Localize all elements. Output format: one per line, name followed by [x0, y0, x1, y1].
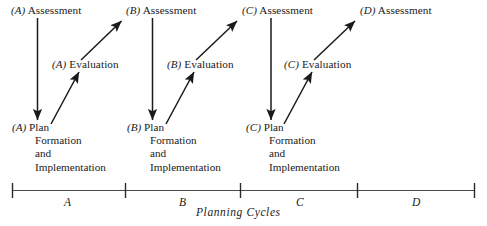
- planning-cycle-diagram: (A) Assessment (B) Assessment (C) Assess…: [0, 0, 487, 226]
- plan-tag-b: (B): [127, 121, 141, 133]
- cycle-tag-c: (C): [242, 4, 257, 16]
- assessment-text-d: Assessment: [378, 4, 432, 16]
- evaluation-tag-c: (C): [284, 58, 299, 70]
- plan-line1-c: Plan: [264, 121, 284, 133]
- plan-block-a: (A) Plan Formation and Implementation: [12, 121, 106, 174]
- plan-tag-c: (C): [246, 121, 261, 133]
- cycle-tag-b: (B): [126, 4, 140, 16]
- evaluation-tag-b: (B): [167, 58, 181, 70]
- assessment-label-a: (A) Assessment: [11, 4, 81, 17]
- cycle-tag-d: (D): [360, 4, 376, 16]
- plan-line2-b: Formation: [127, 134, 221, 147]
- plan-line4-b: Implementation: [127, 161, 221, 174]
- arrow-plan-to-evaluation-b: [166, 72, 194, 124]
- plan-block-c: (C) Plan Formation and Implementation: [246, 121, 340, 174]
- plan-line2-a: Formation: [12, 134, 106, 147]
- arrow-evaluation-to-assessment-b: [81, 21, 122, 60]
- evaluation-text-c: Evaluation: [302, 58, 351, 70]
- plan-line1-b: Plan: [144, 121, 164, 133]
- assessment-label-b: (B) Assessment: [126, 4, 196, 17]
- axis-caption: Planning Cycles: [196, 206, 281, 218]
- plan-line3-c: and: [246, 147, 340, 160]
- arrow-layer: [0, 0, 487, 226]
- axis-segment-label-a: A: [64, 196, 71, 208]
- assessment-text-b: Assessment: [143, 4, 197, 16]
- evaluation-label-a: (A) Evaluation: [52, 58, 119, 71]
- arrow-plan-to-evaluation-c: [284, 72, 312, 124]
- arrow-evaluation-to-assessment-c: [196, 21, 237, 60]
- axis-segment-label-c: C: [296, 196, 304, 208]
- plan-line4-a: Implementation: [12, 161, 106, 174]
- axis-segment-label-b: B: [179, 196, 186, 208]
- plan-block-b: (B) Plan Formation and Implementation: [127, 121, 221, 174]
- evaluation-label-c: (C) Evaluation: [284, 58, 351, 71]
- plan-line3-a: and: [12, 147, 106, 160]
- plan-line3-b: and: [127, 147, 221, 160]
- assessment-label-c: (C) Assessment: [242, 4, 313, 17]
- plan-line2-c: Formation: [246, 134, 340, 147]
- evaluation-tag-a: (A): [52, 58, 66, 70]
- plan-line1-a: Plan: [29, 121, 49, 133]
- assessment-text-a: Assessment: [28, 4, 82, 16]
- axis-segment-label-d: D: [412, 196, 420, 208]
- evaluation-label-b: (B) Evaluation: [167, 58, 234, 71]
- arrow-evaluation-to-assessment-d: [314, 21, 355, 60]
- evaluation-text-b: Evaluation: [184, 58, 233, 70]
- assessment-text-c: Assessment: [259, 4, 313, 16]
- arrow-plan-to-evaluation-a: [51, 72, 79, 124]
- cycle-tag-a: (A): [11, 4, 25, 16]
- assessment-label-d: (D) Assessment: [360, 4, 432, 17]
- evaluation-text-a: Evaluation: [69, 58, 118, 70]
- plan-tag-a: (A): [12, 121, 26, 133]
- plan-line4-c: Implementation: [246, 161, 340, 174]
